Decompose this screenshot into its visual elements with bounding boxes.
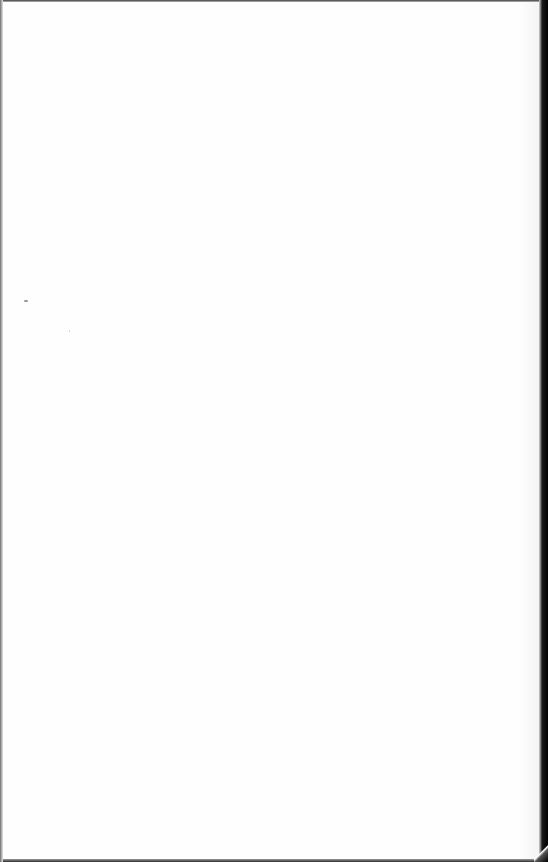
page-corner-curl — [534, 844, 548, 862]
dust-speck — [69, 330, 70, 332]
scan-edge-left — [0, 0, 3, 862]
blank-page — [0, 0, 539, 862]
scan-edge-right — [539, 0, 548, 862]
scan-edge-top — [0, 0, 548, 2]
scanned-document — [0, 0, 548, 862]
dust-speck — [24, 300, 28, 302]
page-shadow — [519, 0, 539, 862]
